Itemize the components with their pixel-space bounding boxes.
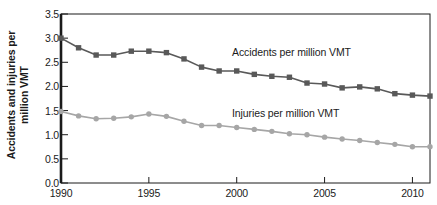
data-point-marker [234, 125, 239, 130]
data-point-marker [93, 52, 98, 57]
data-point-marker [304, 132, 309, 137]
data-point-marker [269, 129, 274, 134]
data-point-marker [410, 92, 415, 97]
data-point-marker [76, 45, 81, 50]
chart-figure: Accidents and injuries per million VMT 0… [0, 0, 437, 205]
data-point-marker [58, 109, 63, 114]
axis-frame [61, 14, 430, 183]
data-point-marker [146, 48, 151, 53]
data-point-marker [287, 131, 292, 136]
data-point-marker [111, 116, 116, 121]
data-point-marker [76, 113, 81, 118]
data-point-marker [129, 48, 134, 53]
data-point-marker [287, 75, 292, 80]
series-label-injuries: Injuries per million VMT [232, 108, 339, 119]
data-point-marker [234, 68, 239, 73]
data-point-marker [252, 127, 257, 132]
x-axis-tick-marks [61, 177, 412, 183]
data-point-marker [199, 64, 204, 69]
data-point-marker [322, 134, 327, 139]
data-point-marker [129, 114, 134, 119]
data-point-marker [339, 85, 344, 90]
data-point-marker [357, 84, 362, 89]
data-point-marker [427, 93, 432, 98]
data-point-marker [93, 116, 98, 121]
data-point-marker [410, 144, 415, 149]
series-accidents [58, 35, 432, 98]
data-point-marker [269, 74, 274, 79]
data-point-marker [392, 91, 397, 96]
data-point-marker [375, 86, 380, 91]
data-point-marker [322, 81, 327, 86]
data-point-marker [357, 138, 362, 143]
data-point-marker [58, 35, 63, 40]
data-point-marker [164, 50, 169, 55]
data-point-marker [252, 72, 257, 77]
data-point-marker [111, 52, 116, 57]
data-point-marker [375, 140, 380, 145]
data-point-marker [304, 80, 309, 85]
data-point-marker [181, 118, 186, 123]
data-point-marker [146, 111, 151, 116]
data-point-marker [181, 56, 186, 61]
data-point-marker [339, 136, 344, 141]
data-point-marker [216, 123, 221, 128]
plot-area [0, 0, 437, 205]
series-label-accidents: Accidents per million VMT [232, 47, 351, 58]
data-point-marker [164, 114, 169, 119]
data-point-marker [427, 144, 432, 149]
data-point-marker [216, 68, 221, 73]
data-point-marker [199, 123, 204, 128]
data-point-marker [392, 142, 397, 147]
